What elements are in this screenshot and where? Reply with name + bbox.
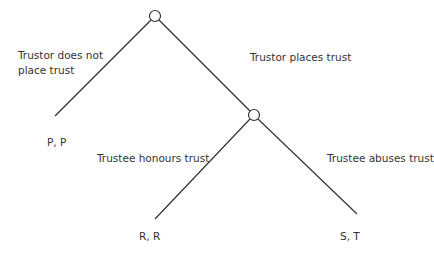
label-abuses-trust: Trustee abuses trust: [326, 152, 434, 164]
edge-honours-trust: [155, 119, 250, 219]
payoff-not-place: P, P: [47, 136, 66, 148]
payoff-abuses: S, T: [340, 230, 360, 242]
label-not-place-line2: place trust: [18, 64, 74, 76]
trust-game-tree: Trustor does not place trust Trustor pla…: [0, 0, 434, 258]
label-not-place-line1: Trustor does not: [17, 49, 103, 61]
edge-abuses-trust: [258, 119, 357, 214]
trustee-decision-node: [249, 110, 260, 121]
edge-place-trust: [159, 20, 250, 111]
payoff-honours: R, R: [139, 230, 160, 242]
label-honours-trust: Trustee honours trust: [96, 152, 209, 164]
label-place-trust: Trustor places trust: [249, 51, 351, 63]
trustor-decision-node: [150, 11, 161, 22]
tree-svg: Trustor does not place trust Trustor pla…: [0, 0, 434, 258]
